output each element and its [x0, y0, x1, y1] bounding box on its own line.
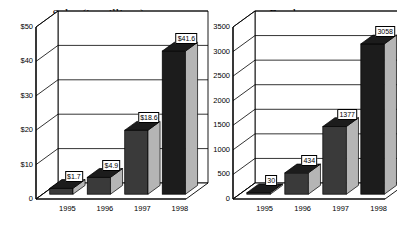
employees-ytick-label: 500 — [217, 171, 230, 179]
employees-xtick-label: 1995 — [256, 205, 273, 213]
sales-ytick-label: $30 — [20, 92, 33, 100]
employees-bar-value-label: 434 — [301, 155, 317, 166]
sales-xtick-label: 1995 — [59, 205, 76, 213]
employees-xtick-label: 1998 — [370, 205, 387, 213]
employees-xtick-label: 1996 — [294, 205, 311, 213]
sales-ytick-label: $50 — [20, 23, 33, 31]
sales-ytick-label: $10 — [20, 161, 33, 169]
sales-plot-svg — [36, 27, 186, 199]
employees-ytick-label: 3000 — [213, 48, 230, 56]
chart-page: Sales (in millions) 0$10$20$30$40$501995… — [0, 0, 397, 237]
employees-ytick-label: 2500 — [213, 72, 230, 80]
sales-bar-value-label: $1.7 — [65, 171, 83, 182]
employees-chart-panel: Employees 050010001500200025003000350019… — [197, 0, 397, 237]
employees-bar-value-label: 1377 — [337, 109, 357, 120]
sales-xtick-label: 1996 — [97, 205, 114, 213]
sales-xtick-label: 1998 — [172, 205, 189, 213]
sales-ytick-label: $20 — [20, 126, 33, 134]
sales-bar-value-label: $4.9 — [103, 160, 121, 171]
employees-ytick-label: 1500 — [213, 122, 230, 130]
employees-bar-value-label: 30 — [265, 175, 277, 186]
sales-chart-panel: Sales (in millions) 0$10$20$30$40$501995… — [0, 0, 197, 237]
employees-ytick-label: 3500 — [213, 23, 230, 31]
employees-ytick-label: 2000 — [213, 97, 230, 105]
sales-ytick-label: 0 — [29, 195, 33, 203]
employees-plot-area: 0500100015002000250030003500199519961997… — [233, 27, 385, 199]
employees-xtick-label: 1997 — [332, 205, 349, 213]
employees-ytick-label: 1000 — [213, 146, 230, 154]
sales-xtick-label: 1997 — [134, 205, 151, 213]
sales-bar-value-label: $18.6 — [138, 112, 160, 123]
employees-ytick-label: 0 — [226, 195, 230, 203]
employees-plot-svg — [233, 27, 385, 199]
employees-bar-value-label: 3058 — [375, 26, 395, 37]
sales-ytick-label: $40 — [20, 58, 33, 66]
sales-plot-area: 0$10$20$30$40$501995199619971998$1.7$4.9… — [36, 27, 186, 199]
sales-bar-value-label: $41.6 — [176, 33, 198, 44]
